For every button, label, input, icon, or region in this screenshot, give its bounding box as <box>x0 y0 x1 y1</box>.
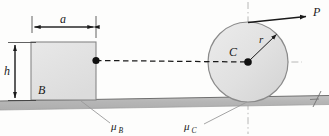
label-friction-mu-c-symbol: μ <box>183 120 190 132</box>
label-block-b: B <box>38 83 46 97</box>
label-cylinder-center-c: C <box>229 45 238 59</box>
block-contact-dot <box>92 57 99 64</box>
label-force-p: P <box>312 5 321 19</box>
label-friction-mu-b-subscript: B <box>119 126 124 135</box>
label-friction-mu-b: μ B <box>110 120 124 135</box>
label-dimension-a: a <box>60 12 66 26</box>
label-friction-mu-c-subscript: C <box>192 126 198 135</box>
label-friction-mu-b-symbol: μ <box>110 120 117 132</box>
label-radius-r: r <box>259 33 264 45</box>
mechanics-diagram: a h B C r P μ B μ C <box>0 0 329 136</box>
force-p-arrow <box>248 17 306 23</box>
diagram-canvas: a h B C r P μ B μ C <box>0 0 329 136</box>
label-friction-mu-c: μ C <box>183 120 198 135</box>
label-dimension-h: h <box>4 64 10 78</box>
